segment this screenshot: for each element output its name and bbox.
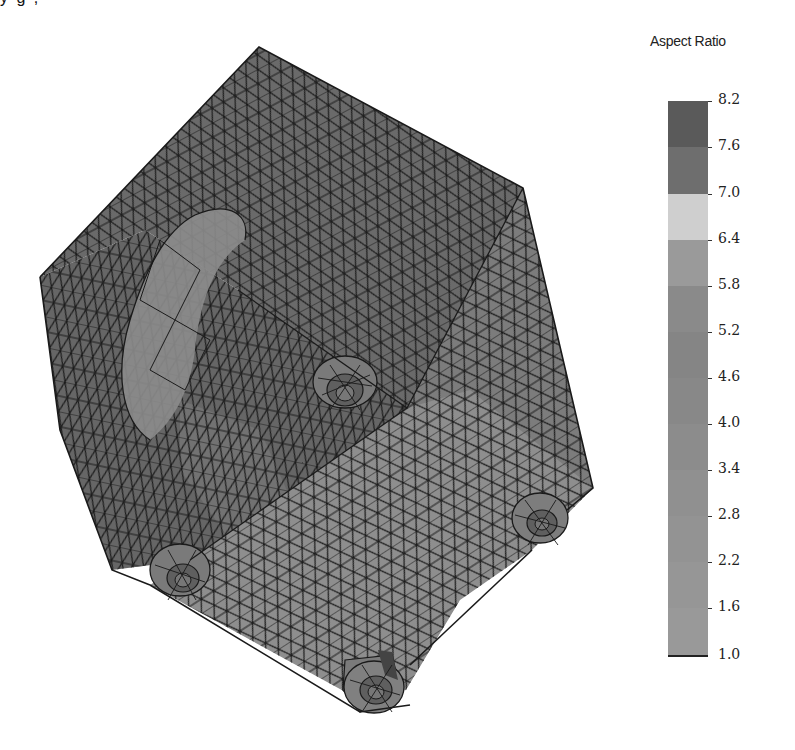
colorbar-tick [708, 286, 712, 287]
colorbar-band [668, 424, 708, 470]
colorbar-tick [708, 470, 712, 471]
colorbar-band [668, 194, 708, 240]
colorbar-tick-label: 1.6 [718, 598, 740, 614]
colorbar-tick-label: 4.0 [718, 414, 740, 430]
colorbar-tick-label: 7.6 [718, 137, 740, 153]
colorbar-tick [708, 378, 712, 379]
mesh-plot [0, 0, 640, 750]
colorbar-band [668, 240, 708, 286]
colorbar-band [668, 101, 708, 147]
colorbar-tick-label: 6.4 [718, 230, 740, 246]
colorbar-tick [708, 240, 712, 241]
colorbar-tick [708, 332, 712, 333]
colorbar-band [668, 608, 708, 655]
colorbar-legend: Aspect Ratio 8.2 7.6 7.0 6.4 5.8 5.2 4.6… [640, 0, 795, 750]
colorbar-tick [708, 424, 712, 425]
colorbar-band [668, 332, 708, 378]
colorbar-title: Aspect Ratio [650, 33, 726, 49]
colorbar-band [668, 378, 708, 424]
colorbar-tick-label: 4.6 [718, 368, 740, 384]
colorbar-band [668, 147, 708, 194]
colorbar-band [668, 286, 708, 332]
colorbar-tick [708, 194, 712, 195]
colorbar-tick-label: 5.2 [718, 322, 740, 338]
colorbar [668, 101, 708, 657]
colorbar-tick-label: 5.8 [718, 276, 740, 292]
colorbar-tick [708, 101, 712, 102]
colorbar-band [668, 470, 708, 516]
colorbar-tick-label: 1.0 [718, 646, 740, 662]
colorbar-tick [708, 562, 712, 563]
colorbar-tick-label: 2.2 [718, 552, 740, 568]
colorbar-band [668, 562, 708, 608]
colorbar-band [668, 516, 708, 562]
colorbar-tick [708, 516, 712, 517]
colorbar-tick-label: 2.8 [718, 506, 740, 522]
colorbar-tick-label: 7.0 [718, 184, 740, 200]
colorbar-tick [708, 608, 712, 609]
colorbar-tick [708, 147, 712, 148]
colorbar-tick-label: 3.4 [718, 460, 740, 476]
colorbar-tick-label: 8.2 [718, 91, 740, 107]
